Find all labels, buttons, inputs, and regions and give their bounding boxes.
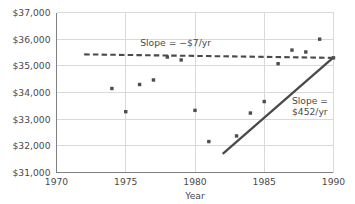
trend-line-flat-trend [84, 54, 333, 57]
y-axis-tick-label: $32,000 [13, 140, 51, 151]
x-axis-title: Year [184, 190, 205, 201]
data-point [249, 111, 252, 114]
x-axis-tick-label: 1985 [253, 176, 277, 187]
x-axis-tick-labels: 19701975198019851990 [45, 176, 346, 187]
data-point [138, 83, 141, 86]
annotations-group: Slope = −$7/yrSlope =$452/yr [140, 37, 328, 117]
data-point [318, 37, 321, 40]
data-point [304, 50, 307, 53]
chart-container: $31,000$32,000$33,000$34,000$35,000$36,0… [0, 0, 355, 204]
y-axis-tick-label: $35,000 [13, 60, 51, 71]
annotation-flat-slope-annotation: Slope = −$7/yr [140, 37, 211, 48]
data-point [193, 109, 196, 112]
scatter-plot: $31,000$32,000$33,000$34,000$35,000$36,0… [0, 0, 355, 204]
data-point [166, 55, 169, 58]
data-point [110, 87, 113, 90]
annotation-rising-slope-annotation: Slope =$452/yr [292, 95, 328, 118]
data-point [207, 140, 210, 143]
data-point [332, 56, 335, 59]
data-point [263, 100, 266, 103]
data-point [290, 48, 293, 51]
y-axis-tick-labels: $31,000$32,000$33,000$34,000$35,000$36,0… [13, 7, 51, 178]
y-axis-tick-label: $37,000 [13, 7, 51, 18]
annotation-line-2: $452/yr [292, 106, 328, 117]
y-axis-tick-label: $36,000 [13, 34, 51, 45]
data-point [276, 62, 279, 65]
data-point [179, 58, 182, 61]
data-points-group [110, 37, 335, 143]
data-point [152, 78, 155, 81]
x-axis-tick-label: 1975 [114, 176, 138, 187]
x-axis-tick-label: 1970 [45, 176, 69, 187]
y-axis-tick-label: $33,000 [13, 114, 51, 125]
data-point [124, 110, 127, 113]
data-point [235, 134, 238, 137]
x-axis-tick-label: 1990 [322, 176, 346, 187]
y-axis-tick-label: $34,000 [13, 87, 51, 98]
x-axis-tick-label: 1980 [183, 176, 207, 187]
annotation-line-1: Slope = [292, 95, 328, 106]
